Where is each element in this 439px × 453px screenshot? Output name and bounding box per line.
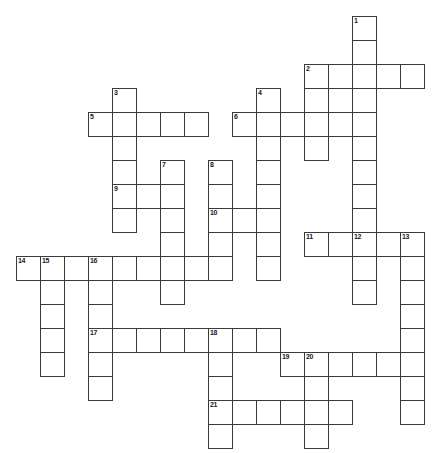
crossword-cell[interactable] — [112, 208, 137, 233]
crossword-cell[interactable] — [328, 400, 353, 425]
crossword-cell-numbered-21[interactable]: 21 — [208, 400, 233, 425]
crossword-cell[interactable] — [304, 112, 329, 137]
crossword-cell-numbered-12[interactable]: 12 — [352, 232, 377, 257]
crossword-cell[interactable] — [64, 256, 89, 281]
crossword-cell-numbered-14[interactable]: 14 — [16, 256, 41, 281]
crossword-cell[interactable] — [304, 88, 329, 113]
crossword-cell-numbered-16[interactable]: 16 — [88, 256, 113, 281]
crossword-cell-numbered-2[interactable]: 2 — [304, 64, 329, 89]
crossword-cell[interactable] — [376, 232, 401, 257]
crossword-cell[interactable] — [88, 280, 113, 305]
crossword-cell[interactable] — [160, 208, 185, 233]
crossword-cell-numbered-13[interactable]: 13 — [400, 232, 425, 257]
crossword-cell[interactable] — [400, 376, 425, 401]
crossword-cell[interactable] — [40, 304, 65, 329]
crossword-cell[interactable] — [256, 232, 281, 257]
crossword-cell[interactable] — [400, 256, 425, 281]
crossword-cell[interactable] — [208, 352, 233, 377]
crossword-cell[interactable] — [328, 112, 353, 137]
crossword-cell[interactable] — [208, 232, 233, 257]
crossword-cell[interactable] — [184, 112, 209, 137]
crossword-cell[interactable] — [304, 424, 329, 449]
crossword-cell[interactable] — [256, 184, 281, 209]
crossword-cell-numbered-3[interactable]: 3 — [112, 88, 137, 113]
crossword-cell-numbered-15[interactable]: 15 — [40, 256, 65, 281]
crossword-cell[interactable] — [40, 352, 65, 377]
crossword-cell[interactable] — [400, 328, 425, 353]
crossword-cell[interactable] — [136, 184, 161, 209]
crossword-cell[interactable] — [40, 328, 65, 353]
crossword-cell[interactable] — [112, 112, 137, 137]
crossword-cell[interactable] — [112, 136, 137, 161]
crossword-cell[interactable] — [352, 208, 377, 233]
crossword-cell-numbered-9[interactable]: 9 — [112, 184, 137, 209]
crossword-cell[interactable] — [352, 280, 377, 305]
crossword-cell[interactable] — [256, 400, 281, 425]
crossword-cell[interactable] — [256, 160, 281, 185]
crossword-cell[interactable] — [352, 136, 377, 161]
crossword-cell[interactable] — [184, 256, 209, 281]
crossword-cell[interactable] — [40, 280, 65, 305]
crossword-cell[interactable] — [160, 328, 185, 353]
crossword-cell-numbered-18[interactable]: 18 — [208, 328, 233, 353]
crossword-cell[interactable] — [256, 136, 281, 161]
crossword-cell[interactable] — [352, 256, 377, 281]
crossword-cell[interactable] — [136, 256, 161, 281]
crossword-cell[interactable] — [208, 376, 233, 401]
crossword-cell[interactable] — [304, 400, 329, 425]
crossword-cell[interactable] — [352, 40, 377, 65]
crossword-cell-numbered-4[interactable]: 4 — [256, 88, 281, 113]
crossword-cell[interactable] — [160, 256, 185, 281]
crossword-cell[interactable] — [88, 304, 113, 329]
crossword-cell-numbered-6[interactable]: 6 — [232, 112, 257, 137]
crossword-cell[interactable] — [112, 160, 137, 185]
crossword-cell[interactable] — [280, 112, 305, 137]
crossword-cell-numbered-20[interactable]: 20 — [304, 352, 329, 377]
crossword-cell-numbered-11[interactable]: 11 — [304, 232, 329, 257]
crossword-cell[interactable] — [160, 280, 185, 305]
crossword-cell[interactable] — [328, 232, 353, 257]
crossword-cell[interactable] — [88, 352, 113, 377]
crossword-cell[interactable] — [232, 208, 257, 233]
crossword-cell[interactable] — [352, 160, 377, 185]
crossword-cell[interactable] — [232, 328, 257, 353]
crossword-cell[interactable] — [160, 184, 185, 209]
crossword-cell-numbered-5[interactable]: 5 — [88, 112, 113, 137]
crossword-cell-numbered-19[interactable]: 19 — [280, 352, 305, 377]
crossword-cell[interactable] — [280, 400, 305, 425]
crossword-cell[interactable] — [208, 184, 233, 209]
crossword-cell[interactable] — [208, 424, 233, 449]
crossword-cell-numbered-7[interactable]: 7 — [160, 160, 185, 185]
crossword-cell[interactable] — [160, 232, 185, 257]
crossword-cell[interactable] — [352, 112, 377, 137]
crossword-cell[interactable] — [136, 112, 161, 137]
crossword-cell[interactable] — [88, 376, 113, 401]
crossword-cell[interactable] — [304, 376, 329, 401]
crossword-cell-numbered-8[interactable]: 8 — [208, 160, 233, 185]
crossword-cell[interactable] — [328, 64, 353, 89]
crossword-cell[interactable] — [208, 256, 233, 281]
crossword-cell-numbered-1[interactable]: 1 — [352, 16, 377, 41]
crossword-cell[interactable] — [400, 352, 425, 377]
crossword-cell[interactable] — [328, 352, 353, 377]
crossword-cell[interactable] — [400, 280, 425, 305]
crossword-cell[interactable] — [112, 256, 137, 281]
crossword-cell[interactable] — [400, 400, 425, 425]
crossword-cell[interactable] — [352, 184, 377, 209]
crossword-cell[interactable] — [304, 136, 329, 161]
crossword-cell-numbered-17[interactable]: 17 — [88, 328, 113, 353]
crossword-cell[interactable] — [256, 112, 281, 137]
crossword-cell[interactable] — [136, 328, 161, 353]
crossword-cell[interactable] — [352, 88, 377, 113]
crossword-cell[interactable] — [232, 400, 257, 425]
crossword-cell[interactable] — [376, 352, 401, 377]
crossword-cell[interactable] — [256, 208, 281, 233]
crossword-cell-numbered-10[interactable]: 10 — [208, 208, 233, 233]
crossword-cell[interactable] — [256, 328, 281, 353]
crossword-cell[interactable] — [112, 328, 137, 353]
crossword-cell[interactable] — [400, 304, 425, 329]
crossword-cell[interactable] — [400, 64, 425, 89]
crossword-grid[interactable]: 123456789101112131415161718192021 — [0, 0, 439, 453]
crossword-cell[interactable] — [160, 112, 185, 137]
crossword-cell[interactable] — [184, 328, 209, 353]
